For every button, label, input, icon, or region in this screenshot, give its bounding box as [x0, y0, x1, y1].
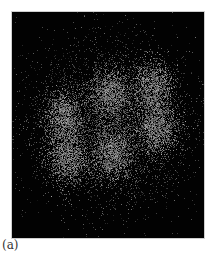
speckle-image-panel: [12, 12, 204, 238]
panel-label: (a): [2, 238, 19, 252]
speckle-pattern: [12, 12, 204, 238]
